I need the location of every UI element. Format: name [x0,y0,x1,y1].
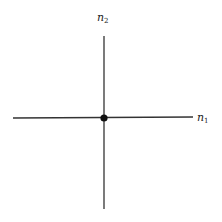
n2-axis-label: n2 [97,12,109,25]
origin-dot [100,114,107,121]
n1-label-subscript: 1 [204,117,208,125]
axes-svg [0,0,222,222]
axes-diagram: n2 n1 [0,0,222,222]
n1-axis-label: n1 [197,112,209,125]
n2-label-subscript: 2 [104,17,108,25]
